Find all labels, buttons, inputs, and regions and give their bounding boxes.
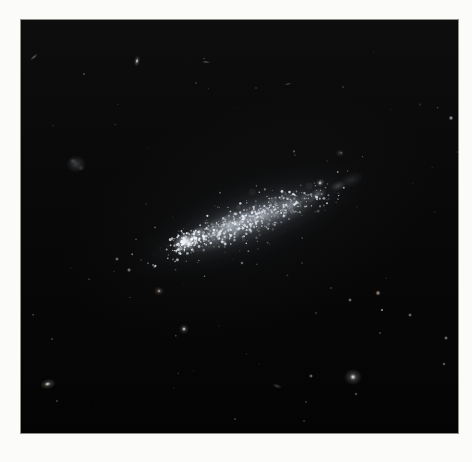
photo-page [0, 0, 472, 462]
photo-frame [21, 20, 458, 433]
galaxy-sky-canvas [21, 20, 458, 433]
